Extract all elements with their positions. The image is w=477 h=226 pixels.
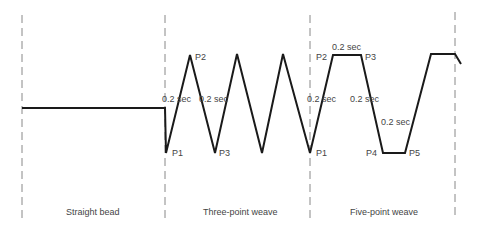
diagram-canvas: P1 P2 P3 0.2 sec 0.2 sec P1 P2 P3 P4 P5 … — [0, 0, 477, 226]
fp-time-rise: 0.2 sec — [307, 94, 337, 104]
fp-time-top: 0.2 sec — [332, 42, 362, 52]
fp-time-bottom: 0.2 sec — [381, 117, 411, 127]
fp-p4-label: P4 — [366, 148, 377, 158]
section-label-three-point: Three-point weave — [203, 207, 278, 217]
fp-p3-label: P3 — [365, 52, 376, 62]
weave-path — [22, 54, 461, 153]
tp-p1-label: P1 — [172, 148, 183, 158]
section-dividers — [22, 12, 455, 220]
fp-time-fall: 0.2 sec — [350, 94, 380, 104]
weave-pattern-diagram: P1 P2 P3 0.2 sec 0.2 sec P1 P2 P3 P4 P5 … — [0, 0, 477, 226]
fp-p1-label: P1 — [316, 148, 327, 158]
tp-p2-label: P2 — [195, 52, 206, 62]
section-label-five-point: Five-point weave — [350, 207, 418, 217]
tp-time-2: 0.2 sec — [199, 94, 229, 104]
fp-p2-label: P2 — [316, 52, 327, 62]
tp-time-1: 0.2 sec — [162, 94, 192, 104]
tp-p3-label: P3 — [219, 148, 230, 158]
section-label-straight: Straight bead — [66, 207, 120, 217]
fp-p5-label: P5 — [409, 148, 420, 158]
